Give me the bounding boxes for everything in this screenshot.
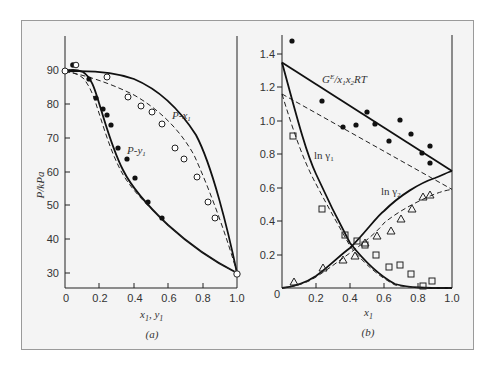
- a-ytick-40: 40: [47, 233, 59, 245]
- b-xtick-1.0: 1.0: [444, 292, 459, 304]
- panel-b: 1.4 1.2 1.0 0.8 0.6 0.4 0.2 0 0.2 0.4 0.…: [260, 35, 460, 339]
- b-xtick-0: 0: [274, 288, 280, 300]
- panel-a: 90 80 70 60 50 40 30 0 0.2 0.4 0.6 0.8 1…: [34, 36, 245, 341]
- a-ytick-30: 30: [47, 267, 59, 279]
- b-ytick-1.4: 1.4: [260, 48, 275, 60]
- a-ytick-50: 50: [47, 199, 59, 211]
- a-px1-data-points: [62, 68, 240, 277]
- a-xtick-0.4: 0.4: [127, 292, 142, 304]
- b-lng2-dashed-curve: [282, 189, 452, 288]
- b-caption: (b): [362, 326, 375, 339]
- b-ytick-0.2: 0.2: [260, 249, 275, 261]
- b-lng1-label: ln γ1: [314, 149, 334, 163]
- a-px1-solid-curve: [65, 71, 237, 273]
- a-xtick-0.2: 0.2: [92, 292, 107, 304]
- a-caption: (a): [146, 328, 159, 341]
- b-ytick-1.2: 1.2: [260, 81, 275, 93]
- b-lng1-data-points: [290, 133, 435, 289]
- figure-svg: 90 80 70 60 50 40 30 0 0.2 0.4 0.6 0.8 1…: [0, 0, 494, 369]
- a-px1-label: P-x1: [171, 109, 191, 123]
- b-xtick-0.6: 0.6: [376, 292, 391, 304]
- a-x-ticks: [99, 283, 203, 288]
- a-xlabel: x1, y1: [139, 308, 163, 323]
- b-ytick-1.0: 1.0: [260, 115, 275, 127]
- b-ge-label: GE/x1x2RT: [322, 73, 368, 87]
- b-ge-dashed-line: [282, 94, 452, 189]
- b-lng1-solid-curve: [282, 62, 452, 288]
- a-py1-label: P-y1: [126, 144, 146, 158]
- b-y-ticks: [277, 54, 282, 255]
- b-ge-data-points: [289, 38, 432, 165]
- a-xtick-0.8: 0.8: [195, 292, 210, 304]
- a-ytick-60: 60: [47, 166, 59, 178]
- a-xtick-0: 0: [63, 292, 69, 304]
- a-ytick-70: 70: [47, 132, 59, 144]
- b-ytick-0.8: 0.8: [260, 148, 275, 160]
- b-xtick-0.8: 0.8: [410, 292, 425, 304]
- b-lng2-label: ln γ2: [381, 185, 401, 199]
- b-xtick-0.2: 0.2: [308, 292, 323, 304]
- a-ytick-90: 90: [47, 64, 59, 76]
- a-py1-data-points: [70, 62, 164, 220]
- a-xtick-0.6: 0.6: [161, 292, 176, 304]
- b-ytick-0.6: 0.6: [260, 182, 275, 194]
- b-ytick-0.4: 0.4: [260, 215, 275, 227]
- b-xlabel: x1: [363, 306, 373, 321]
- a-xtick-1.0: 1.0: [229, 292, 244, 304]
- b-xtick-0.4: 0.4: [342, 292, 357, 304]
- b-lng2-solid-curve: [282, 171, 452, 288]
- a-ylabel: P/kPa: [34, 171, 46, 199]
- b-lng1-dashed-curve: [282, 94, 452, 288]
- a-ytick-80: 80: [47, 98, 59, 110]
- a-y-ticks: [65, 70, 70, 273]
